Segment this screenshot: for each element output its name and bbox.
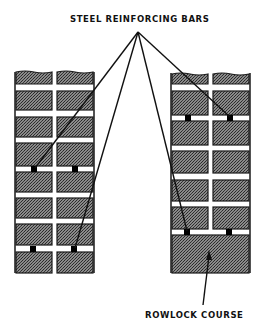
- rowlock-course-label: ROWLOCK COURSE: [145, 310, 244, 320]
- right-wall: [171, 73, 250, 273]
- leader-line: [75, 32, 138, 248]
- steel-reinforcing-bars-label: STEEL REINFORCING BARS: [70, 14, 210, 24]
- rebar-icon: [71, 246, 77, 252]
- left-wall: [15, 71, 94, 273]
- rebar-icon: [72, 166, 78, 172]
- rebar-icon: [30, 246, 36, 252]
- rowlock-course: [172, 235, 249, 273]
- rebar-icon: [185, 115, 191, 121]
- rebar-icon: [226, 229, 232, 235]
- reinforced-masonry-diagram: [0, 0, 261, 333]
